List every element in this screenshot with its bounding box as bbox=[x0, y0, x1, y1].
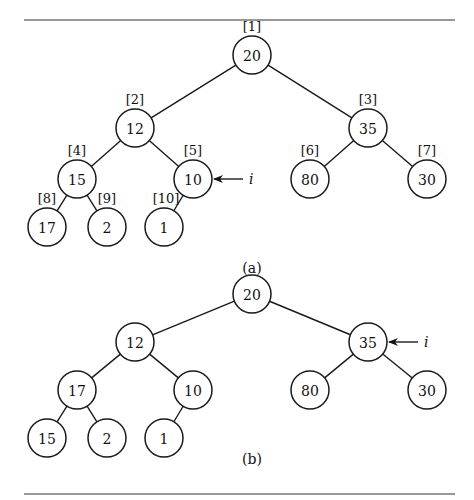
pointer-label: i bbox=[249, 171, 253, 187]
node-value: 80 bbox=[301, 172, 319, 188]
node-value: 12 bbox=[126, 121, 144, 137]
node-value: 35 bbox=[359, 121, 377, 137]
tree-a: 20[1]12[2]35[3]15[4]10[5]80[6]30[7]17[8]… bbox=[28, 19, 446, 277]
tree-node: 17 bbox=[58, 371, 96, 409]
tree-node: 10[5] bbox=[174, 143, 212, 199]
pointer-label: i bbox=[424, 334, 428, 350]
tree-edge bbox=[325, 354, 354, 378]
heap-diagram: 20[1]12[2]35[3]15[4]10[5]80[6]30[7]17[8]… bbox=[0, 0, 474, 500]
node-index-label: [8] bbox=[38, 191, 56, 206]
node-index-label: [6] bbox=[301, 143, 319, 158]
tree-node: 17[8] bbox=[28, 191, 66, 247]
node-value: 20 bbox=[243, 287, 261, 303]
tree-node: 12 bbox=[116, 323, 154, 361]
node-index-label: [9] bbox=[98, 191, 116, 206]
node-index-label: [5] bbox=[184, 143, 202, 158]
node-value: 15 bbox=[38, 431, 56, 447]
tree-edge bbox=[153, 301, 235, 335]
node-value: 30 bbox=[418, 383, 436, 399]
tree-edge bbox=[87, 195, 97, 211]
tree-node: 80[6] bbox=[291, 143, 329, 199]
tree-edge bbox=[87, 406, 97, 422]
tree-edge bbox=[149, 141, 178, 167]
pointer-i: i bbox=[389, 334, 428, 350]
node-index-label: [2] bbox=[126, 92, 144, 107]
tree-edge bbox=[174, 406, 183, 421]
tree-node: 2[9] bbox=[88, 191, 126, 247]
node-value: 17 bbox=[68, 383, 86, 399]
tree-node: 1[10] bbox=[145, 191, 183, 247]
node-value: 80 bbox=[301, 383, 319, 399]
subfigure-caption: (a) bbox=[242, 260, 261, 276]
node-value: 20 bbox=[243, 48, 261, 64]
node-value: 15 bbox=[68, 172, 86, 188]
tree-node: 15[4] bbox=[58, 143, 96, 199]
tree-node: 20 bbox=[233, 275, 271, 313]
node-value: 10 bbox=[184, 172, 202, 188]
node-value: 2 bbox=[103, 220, 112, 236]
tree-edge bbox=[383, 354, 413, 378]
tree-edge bbox=[151, 65, 236, 118]
edges bbox=[57, 301, 412, 422]
tree-node: 35[3] bbox=[349, 92, 387, 148]
tree-node: 30[7] bbox=[408, 143, 446, 199]
node-index-label: [3] bbox=[359, 92, 377, 107]
tree-edge bbox=[92, 354, 121, 378]
tree-node: 80 bbox=[291, 371, 329, 409]
node-value: 12 bbox=[126, 335, 144, 351]
tree-edge bbox=[270, 301, 351, 334]
tree-edge bbox=[91, 141, 120, 167]
tree-node: 10 bbox=[174, 371, 212, 409]
tree-node: 1 bbox=[145, 419, 183, 457]
node-index-label: [10] bbox=[153, 191, 180, 206]
tree-node: 2 bbox=[88, 419, 126, 457]
node-value: 1 bbox=[160, 431, 169, 447]
node-value: 1 bbox=[160, 220, 169, 236]
tree-node: 15 bbox=[28, 419, 66, 457]
node-index-label: [4] bbox=[68, 143, 86, 158]
node-value: 2 bbox=[103, 431, 112, 447]
tree-node: 12[2] bbox=[116, 92, 154, 148]
tree-edge bbox=[57, 406, 67, 422]
tree-edge bbox=[57, 195, 67, 211]
tree-edge bbox=[150, 354, 179, 378]
node-index-label: [1] bbox=[243, 19, 261, 34]
node-value: 30 bbox=[418, 172, 436, 188]
node-value: 35 bbox=[359, 335, 377, 351]
tree-edge bbox=[382, 140, 412, 166]
subfigure-caption: (b) bbox=[242, 451, 262, 467]
tree-edge bbox=[268, 65, 352, 118]
node-value: 17 bbox=[38, 220, 56, 236]
node-value: 10 bbox=[184, 383, 202, 399]
tree-edge bbox=[324, 141, 353, 167]
tree-node: 20[1] bbox=[233, 19, 271, 75]
pointer-i: i bbox=[214, 171, 253, 187]
tree-node: 30 bbox=[408, 371, 446, 409]
node-index-label: [7] bbox=[418, 143, 436, 158]
tree-b: 201235171080301521i(b) bbox=[28, 275, 446, 467]
tree-node: 35 bbox=[349, 323, 387, 361]
